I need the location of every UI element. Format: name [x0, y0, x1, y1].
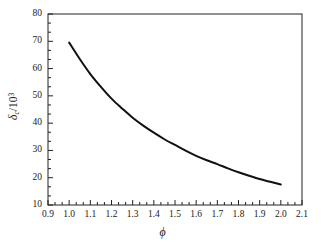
y-tick-label: 70 [16, 36, 42, 46]
data-series-line [69, 43, 281, 185]
x-axis-title: ϕ [0, 226, 325, 238]
y-tick-label: 80 [16, 9, 42, 19]
y-tick-label: 60 [16, 64, 42, 74]
x-tick-label: 2.1 [288, 210, 316, 220]
y-tick-label: 10 [16, 200, 42, 210]
y-axis-title-divisor: 10 [7, 97, 19, 109]
axis-ticks [48, 14, 302, 205]
figure-chart: 1020304050607080 0.91.01.11.21.31.41.51.… [0, 0, 325, 249]
y-axis-title-exponent: 3 [7, 93, 16, 97]
y-axis-title-subscript: c [12, 111, 21, 114]
y-axis-title: δc/103 [8, 76, 21, 136]
y-tick-label: 20 [16, 173, 42, 183]
plot-frame [48, 14, 302, 205]
y-tick-label: 30 [16, 145, 42, 155]
y-axis-title-symbol: δ [7, 115, 19, 120]
